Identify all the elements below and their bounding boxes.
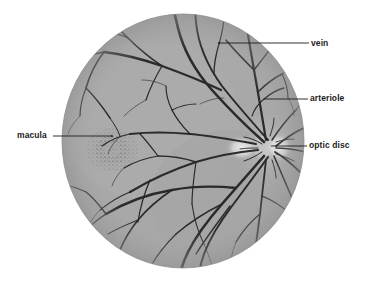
label-optic-disc: optic disc (309, 140, 350, 150)
leader-dot-vein (218, 42, 220, 44)
label-arteriole: arteriole (310, 93, 344, 103)
leader-dot-macula (111, 135, 113, 137)
label-macula: macula (17, 130, 47, 140)
label-vein: vein (311, 38, 328, 48)
retina-rim-shading (62, 14, 304, 268)
